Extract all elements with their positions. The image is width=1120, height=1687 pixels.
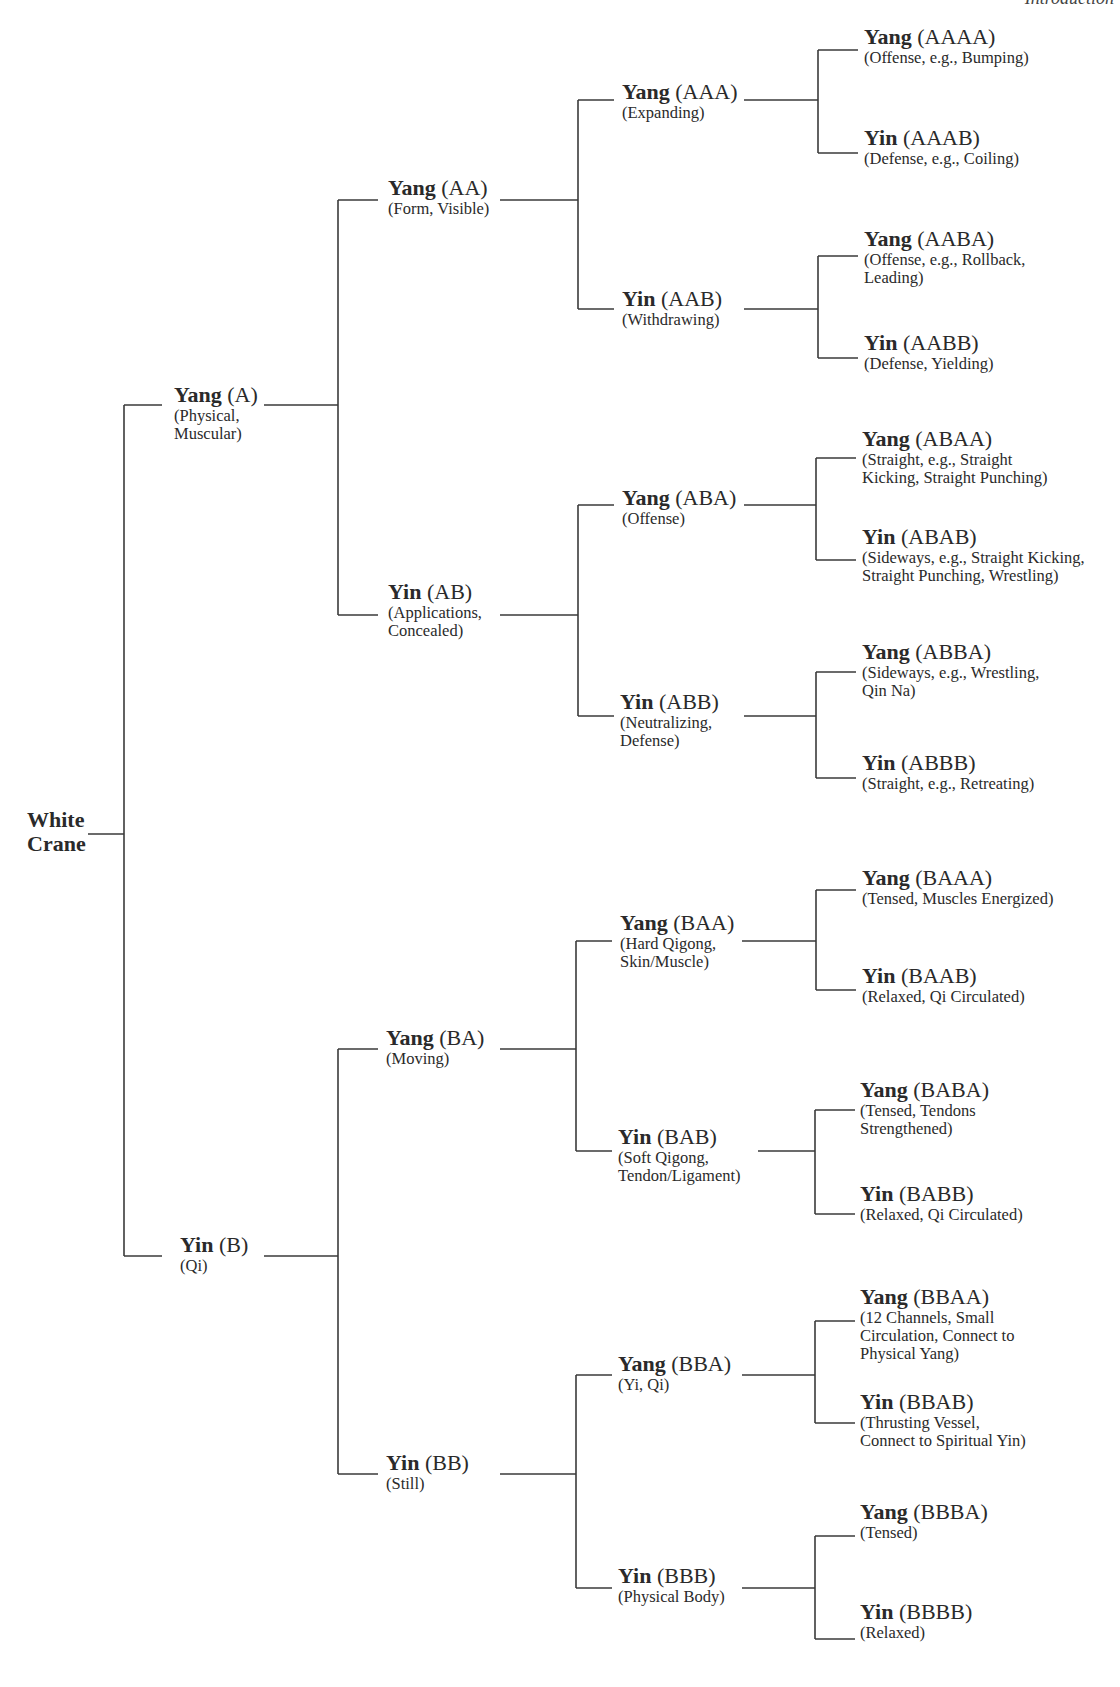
node-code: (BB): [425, 1450, 469, 1475]
tree-node-aba: Yang (ABA)(Offense): [622, 486, 736, 528]
node-title: Yang (BBAA): [860, 1285, 1014, 1309]
node-description: (Tensed, Muscles Energized): [862, 890, 1053, 908]
tree-node-bb: Yin (BB)(Still): [386, 1451, 469, 1493]
node-pole: Yin: [180, 1232, 213, 1257]
node-description: (Straight, e.g., Straight Kicking, Strai…: [862, 451, 1048, 487]
node-description: (Yi, Qi): [618, 1376, 731, 1394]
node-description: (Offense): [622, 510, 736, 528]
node-pole: Yin: [618, 1563, 651, 1588]
tree-node-bbba: Yang (BBBA)(Tensed): [860, 1500, 988, 1542]
root-node-white-crane: White Crane: [27, 808, 86, 856]
node-pole: Yin: [862, 963, 895, 988]
node-code: (BAAB): [901, 963, 977, 988]
tree-node-abaa: Yang (ABAA)(Straight, e.g., Straight Kic…: [862, 427, 1048, 487]
node-code: (A): [227, 382, 258, 407]
node-code: (BA): [439, 1025, 484, 1050]
node-pole: Yin: [860, 1181, 893, 1206]
node-pole: Yin: [864, 330, 897, 355]
node-code: (ABB): [659, 689, 719, 714]
node-title: Yang (AAA): [622, 80, 738, 104]
tree-node-bbbb: Yin (BBBB)(Relaxed): [860, 1600, 972, 1642]
node-pole: Yang: [622, 485, 670, 510]
node-pole: Yang: [860, 1077, 908, 1102]
node-code: (AAA): [675, 79, 737, 104]
tree-node-baab: Yin (BAAB)(Relaxed, Qi Circulated): [862, 964, 1025, 1006]
node-code: (ABA): [675, 485, 736, 510]
node-title: Yin (BAB): [618, 1125, 741, 1149]
node-pole: Yin: [622, 286, 655, 311]
node-title: Yang (AAAA): [864, 25, 1029, 49]
node-pole: Yin: [864, 125, 897, 150]
tree-node-aabb: Yin (AABB)(Defense, Yielding): [864, 331, 994, 373]
node-description: (Sideways, e.g., Straight Kicking, Strai…: [862, 549, 1085, 585]
tree-node-abab: Yin (ABAB)(Sideways, e.g., Straight Kick…: [862, 525, 1085, 585]
node-title: Yin (B): [180, 1233, 248, 1257]
node-pole: Yang: [862, 865, 910, 890]
node-pole: Yin: [862, 750, 895, 775]
tree-node-abba: Yang (ABBA)(Sideways, e.g., Wrestling, Q…: [862, 640, 1039, 700]
node-title: Yang (BBBA): [860, 1500, 988, 1524]
node-title: Yang (BBA): [618, 1352, 731, 1376]
node-description: (Withdrawing): [622, 311, 722, 329]
node-title: Yang (BAAA): [862, 866, 1053, 890]
node-pole: Yang: [388, 175, 436, 200]
node-pole: Yang: [618, 1351, 666, 1376]
tree-node-aaaa: Yang (AAAA)(Offense, e.g., Bumping): [864, 25, 1029, 67]
node-code: (AABB): [903, 330, 979, 355]
node-description: (Physical, Muscular): [174, 407, 258, 443]
node-code: (B): [219, 1232, 248, 1257]
node-description: (Soft Qigong, Tendon/Ligament): [618, 1149, 741, 1185]
node-description: (Expanding): [622, 104, 738, 122]
node-title: Yin (AABB): [864, 331, 994, 355]
node-title: Yin (BB): [386, 1451, 469, 1475]
node-description: (Offense, e.g., Rollback, Leading): [864, 251, 1025, 287]
node-description: (Straight, e.g., Retreating): [862, 775, 1034, 793]
node-pole: Yin: [620, 689, 653, 714]
node-code: (BBBA): [913, 1499, 988, 1524]
node-title: Yang (BA): [386, 1026, 484, 1050]
tree-node-aa: Yang (AA)(Form, Visible): [388, 176, 489, 218]
node-code: (AB): [427, 579, 472, 604]
node-pole: Yin: [388, 579, 421, 604]
node-code: (ABAA): [915, 426, 992, 451]
node-pole: Yang: [862, 426, 910, 451]
node-description: (Form, Visible): [388, 200, 489, 218]
node-pole: Yang: [862, 639, 910, 664]
node-pole: Yin: [618, 1124, 651, 1149]
node-title: Yang (ABA): [622, 486, 736, 510]
node-pole: Yang: [386, 1025, 434, 1050]
tree-node-aab: Yin (AAB)(Withdrawing): [622, 287, 722, 329]
tree-node-bab: Yin (BAB)(Soft Qigong, Tendon/Ligament): [618, 1125, 741, 1185]
tree-node-babb: Yin (BABB)(Relaxed, Qi Circulated): [860, 1182, 1023, 1224]
node-title: Yin (ABBB): [862, 751, 1034, 775]
node-pole: Yang: [864, 24, 912, 49]
tree-node-abb: Yin (ABB)(Neutralizing, Defense): [620, 690, 719, 750]
node-pole: Yin: [386, 1450, 419, 1475]
node-pole: Yang: [864, 226, 912, 251]
node-title: Yang (ABAA): [862, 427, 1048, 451]
node-description: (Sideways, e.g., Wrestling, Qin Na): [862, 664, 1039, 700]
tree-node-bba: Yang (BBA)(Yi, Qi): [618, 1352, 731, 1394]
node-code: (ABAB): [901, 524, 977, 549]
node-code: (ABBB): [901, 750, 976, 775]
tree-node-bbab: Yin (BBAB)(Thrusting Vessel, Connect to …: [860, 1390, 1026, 1450]
node-title: Yang (AABA): [864, 227, 1025, 251]
tree-node-baba: Yang (BABA)(Tensed, Tendons Strengthened…: [860, 1078, 989, 1138]
tree-node-bbb: Yin (BBB)(Physical Body): [618, 1564, 725, 1606]
node-description: (Moving): [386, 1050, 484, 1068]
node-description: (Tensed): [860, 1524, 988, 1542]
tree-node-aaab: Yin (AAAB)(Defense, e.g., Coiling): [864, 126, 1019, 168]
node-code: (ABBA): [915, 639, 991, 664]
node-code: (AAAA): [917, 24, 995, 49]
node-code: (BBAB): [899, 1389, 974, 1414]
node-title: Yin (BAAB): [862, 964, 1025, 988]
node-description: (Tensed, Tendons Strengthened): [860, 1102, 989, 1138]
node-title: Yin (AB): [388, 580, 482, 604]
node-description: (Thrusting Vessel, Connect to Spiritual …: [860, 1414, 1026, 1450]
node-description: (Relaxed): [860, 1624, 972, 1642]
node-title: Yin (AAB): [622, 287, 722, 311]
node-pole: Yin: [862, 524, 895, 549]
node-description: (Hard Qigong, Skin/Muscle): [620, 935, 734, 971]
node-description: (Defense, Yielding): [864, 355, 994, 373]
tree-node-aaa: Yang (AAA)(Expanding): [622, 80, 738, 122]
